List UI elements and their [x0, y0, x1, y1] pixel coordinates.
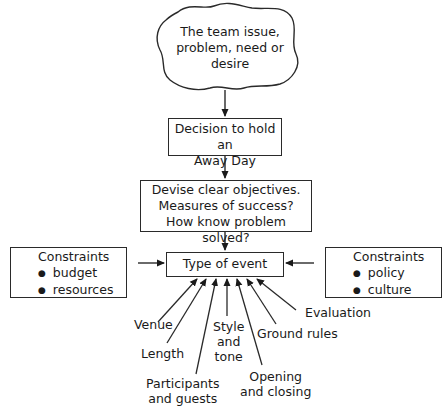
input-evaluation: Evaluation [305, 305, 371, 320]
constraints-left-node: Constraints budget resources [10, 247, 127, 298]
input-venue: Venue [134, 317, 173, 332]
arrow-ground-rules [247, 279, 276, 324]
objectives-line-3: How know problem solved? [141, 214, 311, 246]
objectives-node: Devise clear objectives. Measures of suc… [140, 180, 312, 232]
decision-line-2: Away Day [169, 153, 281, 169]
event-label: Type of event [183, 256, 267, 271]
input-opening-closing: Opening and closing [240, 369, 311, 399]
issue-node: The team issue, problem, need or desire [170, 24, 290, 72]
arrow-evaluation [257, 279, 296, 310]
constraints-right-node: Constraints policy culture [325, 247, 442, 298]
issue-line-3: desire [170, 56, 290, 72]
objectives-line-1: Devise clear objectives. [141, 182, 311, 198]
constraints-left-title: Constraints [38, 249, 126, 265]
input-style-tone: Style and tone [213, 319, 244, 364]
constraint-resources: resources [38, 282, 126, 299]
decision-node: Decision to hold an Away Day [168, 118, 282, 156]
constraint-budget: budget [38, 265, 126, 282]
input-ground-rules: Ground rules [257, 326, 338, 341]
constraints-right-title: Constraints [353, 249, 441, 265]
constraint-policy: policy [353, 265, 441, 282]
arrow-length [167, 279, 206, 343]
objectives-line-2: Measures of success? [141, 198, 311, 214]
issue-line-1: The team issue, [170, 24, 290, 40]
constraint-culture: culture [353, 282, 441, 299]
input-length: Length [141, 346, 184, 361]
event-node: Type of event [166, 252, 284, 277]
issue-line-2: problem, need or [170, 40, 290, 56]
decision-line-1: Decision to hold an [169, 121, 281, 153]
arrow-venue [158, 279, 197, 322]
input-participants: Participants and guests [146, 376, 219, 406]
